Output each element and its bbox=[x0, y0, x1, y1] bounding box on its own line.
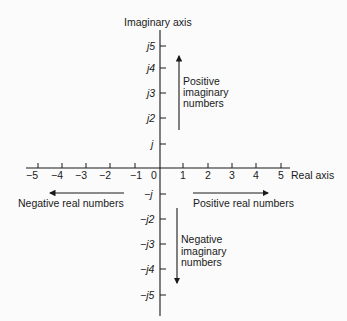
negative-imaginary-label: Negative imaginary numbers bbox=[181, 233, 227, 268]
tick-label: −j2 bbox=[140, 213, 154, 225]
svg-text:Negative: Negative bbox=[181, 233, 223, 245]
tick-label: 3 bbox=[229, 169, 235, 181]
tick-label: −j3 bbox=[140, 238, 154, 250]
tick-label: −j4 bbox=[140, 263, 154, 275]
imaginary-ticks bbox=[160, 46, 166, 295]
tick-label: −1 bbox=[130, 169, 142, 181]
svg-text:numbers: numbers bbox=[181, 256, 222, 268]
imaginary-tick-labels-positive: j j2 j3 j4 j5 bbox=[145, 40, 155, 150]
tick-label: j3 bbox=[145, 87, 155, 99]
tick-label: j4 bbox=[145, 62, 155, 74]
tick-label: j5 bbox=[145, 40, 155, 52]
real-axis-title: Real axis bbox=[291, 169, 334, 181]
imaginary-axis-title: Imaginary axis bbox=[124, 16, 192, 28]
positive-imaginary-label: Positive imaginary numbers bbox=[183, 75, 229, 109]
tick-label: 2 bbox=[205, 169, 211, 181]
svg-text:numbers: numbers bbox=[183, 97, 224, 109]
tick-label: 1 bbox=[180, 169, 186, 181]
real-tick-labels: −5 −4 −3 −2 −1 0 1 2 3 4 5 bbox=[26, 169, 284, 181]
negative-real-label: Negative real numbers bbox=[18, 197, 124, 209]
tick-label: −j5 bbox=[140, 289, 154, 301]
complex-plane-diagram: Imaginary axis Real axis −5 −4 −3 −2 −1 … bbox=[0, 0, 347, 321]
tick-label: 0 bbox=[151, 169, 157, 181]
imaginary-tick-labels-negative: −j −j2 −j3 −j4 −j5 bbox=[140, 188, 154, 301]
tick-label: 4 bbox=[253, 169, 259, 181]
tick-label: j2 bbox=[145, 112, 155, 124]
tick-label: −3 bbox=[75, 169, 87, 181]
tick-label: −2 bbox=[99, 169, 111, 181]
tick-label: j bbox=[149, 138, 154, 150]
tick-label: 5 bbox=[278, 169, 284, 181]
tick-label: −j bbox=[144, 188, 153, 200]
tick-label: −5 bbox=[26, 169, 38, 181]
tick-label: −4 bbox=[51, 169, 63, 181]
positive-real-label: Positive real numbers bbox=[193, 197, 294, 209]
